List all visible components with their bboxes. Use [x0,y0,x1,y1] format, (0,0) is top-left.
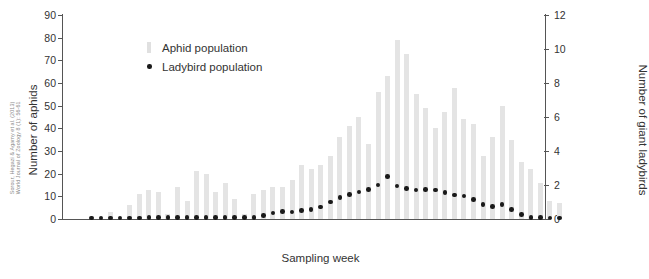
y-axis-left-tick [58,38,63,39]
y-axis-right-tick [544,117,549,118]
y-axis-right-tick [544,185,549,186]
legend-label: Ladybird population [162,61,262,73]
bar [433,128,438,219]
y-axis-left-tick-label: 40 [16,123,56,134]
bar [519,162,524,219]
bar [538,183,543,219]
bar [442,112,447,219]
data-point [529,215,534,220]
y-axis-left-tick [58,219,63,220]
data-point [471,197,476,202]
bar [328,156,333,219]
y-axis-left-line [62,14,63,220]
data-point [223,215,228,220]
y-axis-left-tick-label: 50 [16,101,56,112]
bar [452,88,457,219]
y-axis-left-tick [58,174,63,175]
y-axis-right-tick-label: 8 [554,78,594,89]
data-point [185,215,190,220]
data-point [385,174,390,179]
y-axis-left-tick [58,60,63,61]
y-axis-right-tick [544,15,549,16]
x-axis-line [62,219,546,220]
data-point [175,215,180,220]
y-axis-right-tick-label: 2 [554,180,594,191]
plot-area: 0102030405060708090 024681012 Aphid popu… [62,14,546,220]
bar [204,174,209,219]
data-point [404,186,409,191]
data-point [509,207,514,212]
data-point [433,188,438,193]
bar [280,187,285,219]
x-axis-title: Sampling week [0,252,641,264]
data-point [280,209,285,214]
data-point [232,215,237,220]
bar [223,183,228,219]
bar [376,92,381,219]
bar [528,169,533,219]
data-point [147,215,152,220]
chart-legend: Aphid populationLadybird population [145,38,262,76]
y-axis-right-tick-label: 6 [554,112,594,123]
bar [337,137,342,219]
y-axis-left-tick [58,106,63,107]
data-point [299,208,304,213]
data-point [443,190,448,195]
y-axis-right-tick [544,83,549,84]
data-point [156,215,161,220]
data-point [347,192,352,197]
y-axis-right-title: Number of giant ladybirds [637,35,649,225]
bar [461,119,466,219]
data-point [548,216,553,221]
bar [356,117,361,219]
data-point [194,215,199,220]
legend-dot-swatch-icon [147,64,152,69]
data-point [213,215,218,220]
data-point [242,215,247,220]
y-axis-left-tick [58,83,63,84]
bar [194,171,199,219]
data-point [366,187,371,192]
data-point [481,202,486,207]
bar [366,144,371,219]
legend-item: Ladybird population [145,57,262,76]
data-point [252,215,257,220]
bar [423,108,428,219]
y-axis-right-tick-label: 10 [554,44,594,55]
y-axis-right-tick [544,151,549,152]
y-axis-left-tick-label: 70 [16,55,56,66]
data-point [538,215,543,220]
data-point [338,195,343,200]
y-axis-left-tick-label: 80 [16,33,56,44]
bar [471,124,476,219]
data-point [519,212,524,217]
data-point [490,204,495,209]
data-point [166,215,171,220]
y-axis-left-tick-label: 30 [16,146,56,157]
legend-item: Aphid population [145,38,262,57]
bar [414,94,419,219]
y-axis-right-tick-label: 4 [554,146,594,157]
y-axis-left-tick-label: 90 [16,10,56,21]
legend-bar-swatch-icon [147,42,151,53]
legend-label: Aphid population [162,42,248,54]
bar [395,40,400,219]
y-axis-left-tick [58,15,63,16]
bar [318,165,323,219]
data-point [137,216,142,221]
y-axis-right-tick-label: 12 [554,10,594,21]
data-point [328,200,333,205]
y-axis-left-tick-label: 10 [16,191,56,202]
y-axis-left-tick-label: 20 [16,169,56,180]
bar [347,126,352,219]
y-axis-left-tick-label: 0 [16,214,56,225]
y-axis-left-tick [58,196,63,197]
bar [385,76,390,219]
bar [481,156,486,219]
data-point [204,215,209,220]
y-axis-right-tick [544,49,549,50]
data-point [423,187,428,192]
bar [404,54,409,219]
y-axis-left-tick [58,151,63,152]
